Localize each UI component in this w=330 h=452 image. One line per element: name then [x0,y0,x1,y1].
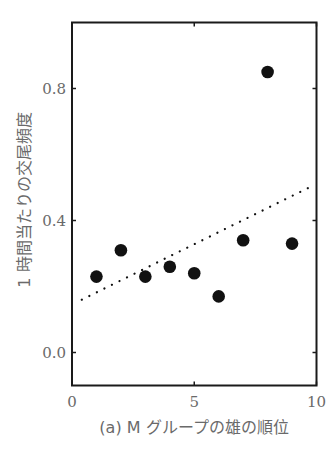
y-tick-label: 0.0 [42,344,66,362]
data-point [115,244,128,257]
data-point [261,66,274,79]
data-point [164,260,177,273]
y-tick-labels: 0.00.40.8 [42,80,66,362]
scatter-chart: 0510 0.00.40.8 (a) M グループの雄の順位 1 時間当たりの交… [0,0,330,452]
x-tick-label: 5 [189,393,199,411]
y-tick-label: 0.8 [42,80,66,98]
axis-ticks [72,23,317,386]
x-axis-label: (a) M グループの雄の順位 [99,418,288,437]
data-point [286,237,299,250]
x-tick-label: 10 [307,393,326,411]
data-point [139,270,152,283]
regression-line [82,188,309,300]
trend-line [82,188,309,300]
x-tick-labels: 0510 [67,393,326,411]
plot-border [72,23,317,386]
data-point [212,290,225,303]
data-point [237,234,250,247]
x-tick-label: 0 [67,393,77,411]
data-points [90,66,298,303]
y-axis-label: 1 時間当たりの交尾頻度 [15,112,34,287]
plot-frame [72,23,317,386]
data-point [188,267,201,280]
y-tick-label: 0.4 [42,212,66,230]
data-point [90,270,103,283]
